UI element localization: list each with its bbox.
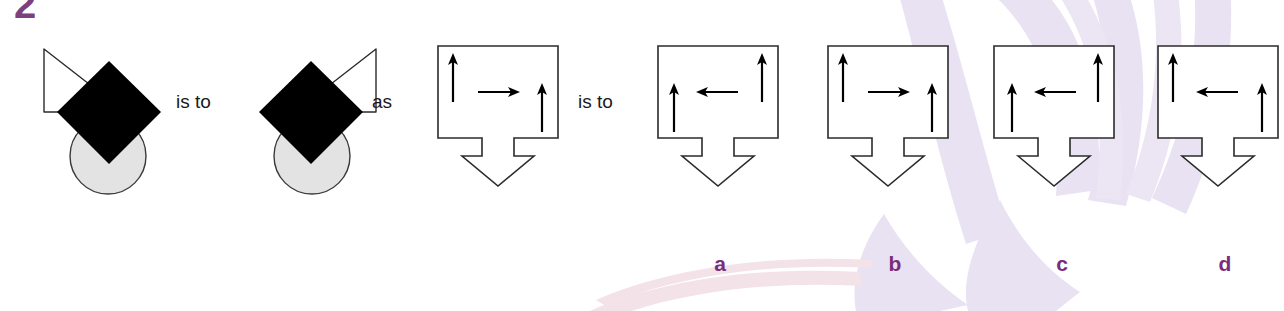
connective-is-to-second: is to (578, 92, 613, 111)
box-figure-option-c[interactable] (988, 40, 1120, 190)
connective-as: as (372, 92, 392, 111)
box-figure-option-a[interactable] (652, 40, 784, 190)
connective-is-to-first: is to (176, 92, 211, 111)
box-outline (658, 46, 778, 186)
box-figure-source (432, 40, 564, 190)
question-page: 2 is to as is t (0, 0, 1284, 311)
option-label-a[interactable]: a (700, 253, 740, 274)
question-number: 2 (14, 0, 36, 24)
box-figure-option-d[interactable] (1152, 40, 1284, 190)
shape-figure-left (30, 34, 190, 204)
box-outline (828, 46, 948, 186)
option-label-b[interactable]: b (875, 253, 915, 274)
shape-figure-right (240, 34, 400, 204)
box-outline (1158, 46, 1278, 186)
box-outline (438, 46, 558, 186)
option-label-d[interactable]: d (1205, 253, 1245, 274)
box-figure-option-b[interactable] (822, 40, 954, 190)
option-label-c[interactable]: c (1042, 253, 1082, 274)
